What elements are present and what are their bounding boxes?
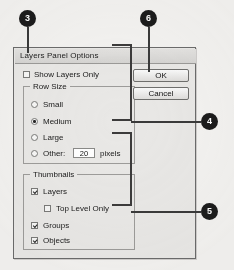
checkbox-groups[interactable] bbox=[31, 222, 38, 229]
row-size-group-title: Row Size bbox=[30, 82, 70, 91]
dialog-title: Layers Panel Options bbox=[20, 51, 99, 60]
callout-bracket-row-size bbox=[112, 44, 132, 121]
checkbox-objects[interactable] bbox=[31, 237, 38, 244]
figure-page: Layers Panel Options Show Layers Only Ro… bbox=[0, 0, 234, 270]
dialog-titlebar: Layers Panel Options bbox=[15, 49, 196, 64]
radio-large[interactable] bbox=[31, 134, 38, 141]
callout-leader-6 bbox=[148, 27, 150, 72]
thumbnails-group-title: Thumbnails bbox=[30, 170, 77, 179]
row-size-label-small: Small bbox=[43, 100, 63, 109]
row-size-label-large: Large bbox=[43, 133, 63, 142]
radio-other[interactable] bbox=[31, 150, 38, 157]
ok-button[interactable]: OK bbox=[133, 69, 189, 82]
thumbnails-label-top-level-only: Top Level Only bbox=[56, 204, 109, 213]
callout-bracket-thumbnails bbox=[112, 132, 132, 206]
callout-marker-6: 6 bbox=[140, 10, 157, 27]
thumbnails-label-layers: Layers bbox=[43, 187, 67, 196]
radio-small[interactable] bbox=[31, 101, 38, 108]
row-size-label-medium: Medium bbox=[43, 117, 71, 126]
row-size-label-other: Other: bbox=[43, 149, 65, 158]
row-size-other-input[interactable]: 20 bbox=[73, 148, 95, 158]
callout-marker-5: 5 bbox=[201, 203, 218, 220]
show-layers-only-label: Show Layers Only bbox=[34, 70, 99, 79]
checkbox-top-level-only[interactable] bbox=[44, 205, 51, 212]
callout-leader-3 bbox=[27, 27, 29, 53]
thumbnails-label-groups: Groups bbox=[43, 221, 69, 230]
layers-panel-options-dialog: Layers Panel Options Show Layers Only Ro… bbox=[13, 47, 196, 259]
cancel-button[interactable]: Cancel bbox=[133, 87, 189, 100]
radio-medium[interactable] bbox=[31, 118, 38, 125]
callout-marker-3: 3 bbox=[19, 10, 36, 27]
row-size-other-value: 20 bbox=[74, 149, 94, 158]
callout-marker-4: 4 bbox=[201, 113, 218, 130]
callout-leader-4 bbox=[131, 121, 201, 123]
callout-leader-5 bbox=[131, 211, 201, 213]
thumbnails-label-objects: Objects bbox=[43, 236, 70, 245]
show-layers-only-checkbox[interactable] bbox=[23, 71, 30, 78]
checkbox-layers[interactable] bbox=[31, 188, 38, 195]
